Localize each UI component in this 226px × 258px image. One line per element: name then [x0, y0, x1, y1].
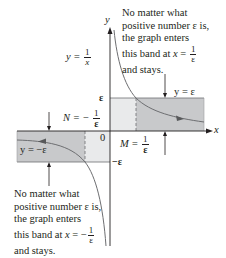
label-y-epsilon: y = ε — [174, 86, 195, 99]
x-axis-arrow-icon — [206, 129, 213, 134]
x-axis-label: x — [214, 124, 219, 137]
label-N: N = − 1ε — [63, 109, 100, 128]
annotation-top-right: No matter what positive number ε is, the… — [122, 7, 209, 76]
label-M: M = 1ε — [120, 135, 149, 154]
tick-epsilon: ε — [99, 92, 103, 105]
y-axis-label: y — [105, 14, 110, 27]
tick-neg-epsilon: −ε — [112, 156, 122, 169]
curve-label: y = 1x — [66, 48, 91, 67]
upper-band-light — [110, 98, 136, 131]
origin-label: 0 — [100, 132, 105, 145]
lower-band-light — [85, 131, 110, 162]
y-axis-arrow-icon — [108, 27, 113, 34]
label-y-neg-epsilon: y = −ε — [20, 144, 47, 157]
annotation-bottom-left: No matter what positive number ε is, the… — [14, 188, 101, 257]
upper-band-dark — [136, 98, 204, 131]
